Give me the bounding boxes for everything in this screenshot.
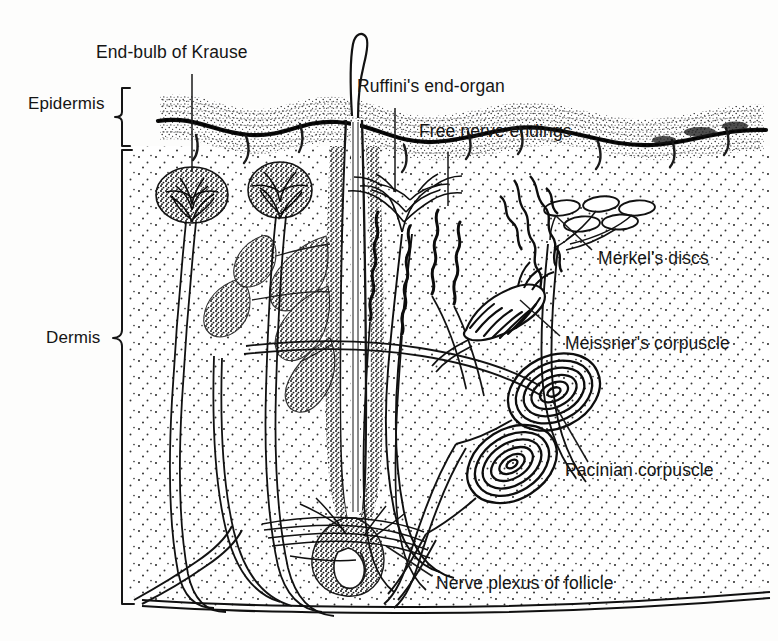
label-merkels-discs: Merkel's discs (598, 250, 709, 268)
label-nerve-plexus-of-follicle: Nerve plexus of follicle (436, 575, 613, 593)
label-dermis: Dermis (46, 329, 100, 346)
figure-canvas: End-bulb of Krause Ruffini's end-organ F… (0, 0, 778, 641)
layer-bracket-epidermis (115, 88, 130, 146)
skin-cross-section-illustration (0, 0, 778, 641)
label-end-bulb-of-krause: End-bulb of Krause (96, 44, 248, 62)
label-epidermis: Epidermis (28, 95, 104, 112)
label-meissners-corpuscle: Meissner's corpuscle (565, 335, 730, 353)
label-pacinian-corpuscle: Pacinian corpuscle (565, 462, 714, 480)
label-free-nerve-endings: Free nerve endings (419, 123, 572, 141)
label-ruffinis-end-organ: Ruffini's end-organ (357, 78, 505, 96)
